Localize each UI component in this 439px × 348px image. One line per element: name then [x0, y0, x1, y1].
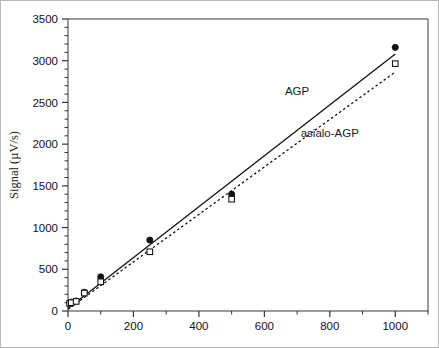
y-axis: 0500100015002000250030003500: [32, 13, 68, 317]
chart-page: 0500100015002000250030003500 02004006008…: [0, 0, 439, 348]
y-tick-label: 3500: [32, 13, 58, 25]
x-tick-label: 800: [320, 320, 339, 332]
data-point-asialo-agp: [147, 249, 153, 255]
data-point-asialo-agp: [98, 279, 104, 285]
data-point-asialo-agp: [392, 61, 398, 67]
y-tick-label: 2500: [32, 97, 58, 109]
signal-vs-concentration-chart: 0500100015002000250030003500 02004006008…: [0, 0, 439, 348]
x-tick-label: 1000: [382, 320, 408, 332]
series-label-agp: AGP: [285, 85, 310, 97]
data-point-asialo-agp: [73, 299, 79, 305]
y-tick-label: 3000: [32, 55, 58, 67]
y-tick-label: 2000: [32, 138, 58, 150]
series-label-asialo-agp: asialo-AGP: [301, 127, 359, 139]
data-point-agp: [392, 44, 398, 50]
y-tick-label: 1000: [32, 222, 58, 234]
data-point-agp: [147, 237, 153, 243]
x-tick-label: 600: [255, 320, 274, 332]
x-axis: 02004006008001000: [65, 311, 428, 332]
x-tick-label: 200: [124, 320, 143, 332]
y-tick-label: 0: [52, 305, 58, 317]
y-tick-label: 1500: [32, 180, 58, 192]
y-tick-label: 500: [39, 263, 58, 275]
x-tick-label: 0: [65, 320, 71, 332]
x-tick-label: 400: [189, 320, 208, 332]
y-axis-title: Signal (µV/s): [7, 131, 21, 199]
data-point-asialo-agp: [82, 290, 88, 296]
data-point-asialo-agp: [229, 196, 235, 202]
